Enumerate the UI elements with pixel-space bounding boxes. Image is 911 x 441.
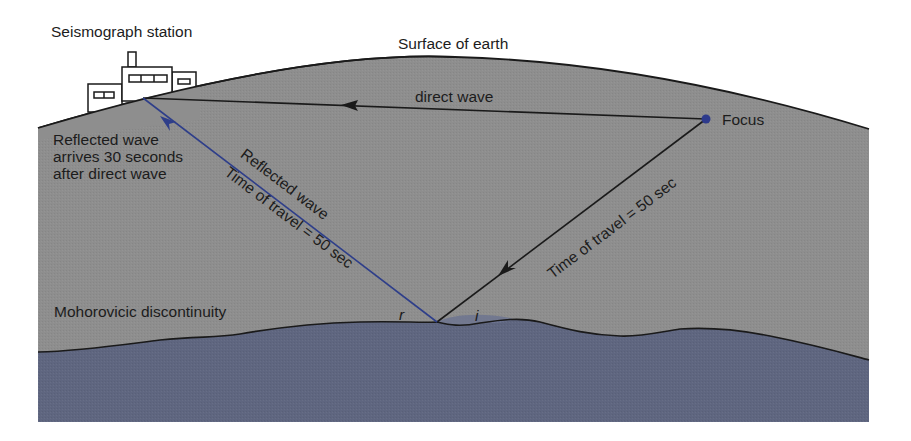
- surface-of-earth-label: Surface of earth: [398, 35, 508, 53]
- moho-label: Mohorovicic discontinuity: [54, 303, 226, 321]
- reflected-note-line-2: arrives 30 seconds: [53, 148, 183, 166]
- focus-point: [702, 115, 711, 124]
- seismograph-station-label: Seismograph station: [51, 23, 192, 41]
- reflection-angle-label: r: [399, 306, 404, 324]
- focus-label: Focus: [722, 111, 764, 129]
- reflected-note-line-3: after direct wave: [53, 165, 167, 183]
- seismic-reflection-diagram: [0, 0, 911, 441]
- incidence-angle-label: i: [475, 307, 478, 325]
- reflected-note-line-1: Reflected wave: [53, 131, 159, 149]
- direct-wave-label: direct wave: [415, 88, 493, 106]
